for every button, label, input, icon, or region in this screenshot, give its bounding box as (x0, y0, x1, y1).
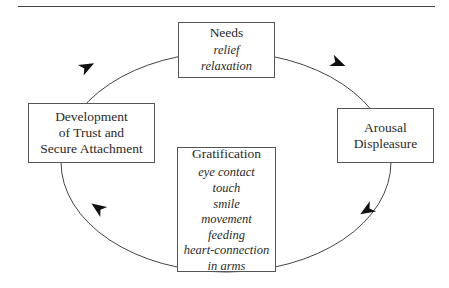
node-gratification: Gratification eye contact touch smile mo… (177, 147, 276, 272)
node-gratification-item: eye contact (184, 165, 269, 181)
node-gratification-title: Gratification (192, 146, 261, 162)
node-needs-item: relief (201, 43, 252, 59)
node-gratification-items: eye contact touch smile movement feeding… (184, 165, 269, 274)
node-needs-item: relaxation (201, 59, 252, 75)
node-gratification-item: smile (184, 197, 269, 213)
arrow-gratification-to-trust-icon (88, 198, 107, 216)
node-needs: Needs relief relaxation (178, 22, 275, 78)
node-gratification-item: feeding (184, 228, 269, 244)
node-gratification-item: touch (184, 181, 269, 197)
node-arousal-title: Arousal Displeasure (354, 120, 418, 152)
node-gratification-item: in arms (184, 259, 269, 275)
node-needs-items: relief relaxation (201, 43, 252, 74)
node-gratification-item: movement (184, 212, 269, 228)
node-trust-title: Development of Trust and Secure Attachme… (40, 109, 142, 157)
node-needs-title: Needs (210, 25, 244, 41)
node-trust: Development of Trust and Secure Attachme… (28, 103, 155, 163)
arrow-arousal-to-gratification-icon (357, 201, 376, 219)
node-arousal: Arousal Displeasure (337, 108, 434, 163)
node-gratification-item: heart-connection (184, 243, 269, 259)
arrow-needs-to-arousal-icon (329, 55, 347, 72)
arrow-trust-to-needs-icon (78, 58, 97, 76)
